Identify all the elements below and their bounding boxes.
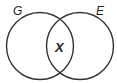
intersection-label: X — [54, 40, 65, 55]
set-e-label: E — [96, 4, 105, 18]
set-g-label: G — [13, 4, 22, 18]
venn-diagram: G E X — [0, 0, 117, 83]
